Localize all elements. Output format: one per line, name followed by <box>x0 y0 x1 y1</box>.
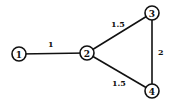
node-2: 2 <box>80 46 94 60</box>
edge-label-2-3: 1.5 <box>111 19 125 29</box>
svg-text:4: 4 <box>149 87 155 97</box>
node-3: 3 <box>145 6 159 20</box>
edge-label-3-4: 2 <box>158 47 164 57</box>
edge-label-1-2: 1 <box>48 39 54 49</box>
edge-1-2 <box>19 53 87 54</box>
edge-label-2-4: 1.5 <box>112 78 126 88</box>
node-1: 1 <box>12 47 26 61</box>
graph-diagram: 1 1.5 2 1.5 1 2 3 4 <box>0 0 172 106</box>
svg-text:1: 1 <box>16 50 22 60</box>
node-4: 4 <box>145 84 159 98</box>
svg-text:3: 3 <box>149 9 155 19</box>
svg-text:2: 2 <box>84 49 90 59</box>
